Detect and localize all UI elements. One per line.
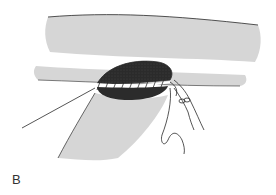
panel-label: B	[12, 172, 21, 187]
anastomosis-illustration	[0, 0, 276, 195]
anastomosis-opening	[95, 61, 172, 100]
graft-vessel	[58, 93, 168, 160]
